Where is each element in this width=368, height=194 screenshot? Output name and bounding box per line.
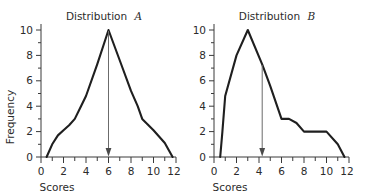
y-tick-label: 2: [26, 125, 33, 137]
chart-panel-distribution-b: Distribution B 0 2: [184, 0, 368, 194]
x-tick-label: 4: [83, 165, 90, 177]
x-axis-tick-labels-b: 0 2 4 6 8 10 12: [211, 165, 354, 177]
x-tick-label: 2: [233, 165, 240, 177]
chart-svg-b: Distribution B 0 2: [184, 0, 368, 194]
distribution-comparison-figure: Distribution A: [0, 0, 368, 194]
x-tick-label: 0: [38, 165, 45, 177]
y-tick-label: 2: [199, 125, 206, 137]
y-axis-ticks-a: [36, 30, 41, 157]
x-tick-label: 6: [105, 165, 112, 177]
y-axis-tick-labels-b: 0 2 4 6 8 10: [193, 24, 207, 163]
chart-title-a: Distribution A: [66, 10, 143, 22]
x-tick-label: 6: [278, 165, 285, 177]
chart-svg-a: Distribution A: [0, 0, 184, 194]
chart-title-b-text: Distribution: [239, 10, 300, 22]
y-axis-title-a: Frequency: [4, 90, 16, 144]
mean-arrow-a: [106, 31, 112, 157]
x-tick-label: 2: [60, 165, 67, 177]
y-tick-label: 8: [26, 49, 33, 61]
y-tick-label: 8: [199, 49, 206, 61]
data-curve-a: [47, 30, 173, 157]
x-tick-label: 8: [301, 165, 308, 177]
data-curve-b: [220, 30, 344, 157]
y-tick-label: 0: [199, 151, 206, 163]
x-axis-title-a: Scores: [40, 181, 75, 193]
y-tick-label: 4: [26, 100, 33, 112]
x-tick-label: 4: [256, 165, 263, 177]
x-axis-tick-labels-a: 0 2 4 6 8 10 12: [38, 165, 181, 177]
x-axis-ticks-a: [41, 157, 176, 163]
x-tick-label: 8: [128, 165, 135, 177]
y-tick-label: 6: [199, 74, 206, 86]
y-tick-label: 4: [199, 100, 206, 112]
chart-title-b: Distribution B: [239, 10, 316, 22]
x-tick-label: 12: [340, 165, 353, 177]
mean-arrow-b: [259, 65, 265, 157]
chart-title-b-symbol: B: [306, 10, 315, 22]
y-axis-tick-labels-a: 0 2 4 6 8 10: [20, 24, 34, 163]
x-tick-label: 10: [320, 165, 333, 177]
x-tick-label: 0: [211, 165, 218, 177]
chart-panel-distribution-a: Distribution A: [0, 0, 184, 194]
y-tick-label: 10: [193, 24, 206, 36]
y-axis-ticks-b: [209, 30, 214, 157]
y-tick-label: 6: [26, 74, 33, 86]
x-axis-ticks-b: [214, 157, 349, 163]
x-axis-title-b: Scores: [213, 181, 248, 193]
x-tick-label: 10: [147, 165, 160, 177]
x-tick-label: 12: [167, 165, 180, 177]
chart-title-a-symbol: A: [134, 10, 143, 22]
y-tick-label: 10: [20, 24, 33, 36]
y-tick-label: 0: [26, 151, 33, 163]
chart-title-a-text: Distribution: [66, 10, 127, 22]
